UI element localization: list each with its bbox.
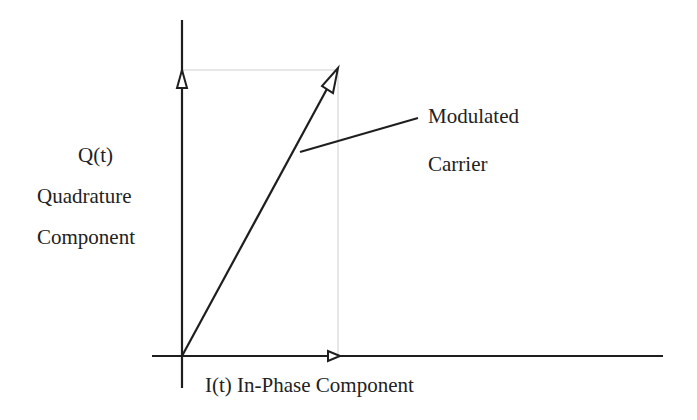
carrier-arrowhead-icon <box>322 68 338 93</box>
q-axis-symbol: Q(t) <box>78 145 113 166</box>
carrier-vector <box>182 87 328 356</box>
iq-diagram <box>0 0 697 420</box>
q-component-arrowhead-icon <box>177 70 187 88</box>
carrier-label-leader <box>300 118 418 152</box>
carrier-label-line1: Modulated <box>428 106 519 127</box>
q-axis-name-line2: Component <box>37 227 135 248</box>
carrier-label-line2: Carrier <box>428 154 487 175</box>
q-axis-name-line1: Quadrature <box>37 186 131 207</box>
i-axis-label: I(t) In-Phase Component <box>205 375 414 396</box>
